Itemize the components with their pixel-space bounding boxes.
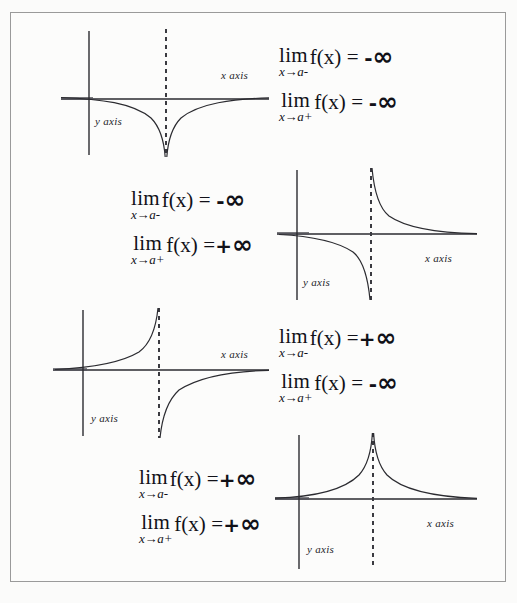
limit-equation-right: lim x→a+ f(x) = - ∞: [279, 371, 398, 404]
limit-equation-right: lim x→a+ f(x) = + ∞: [131, 233, 253, 266]
function-fx: f(x): [162, 188, 193, 213]
lim-text: lim: [281, 90, 310, 110]
function-fx: f(x): [314, 371, 345, 396]
limit-equation-left: lim x→a- f(x) = - ∞: [131, 188, 253, 221]
graph-minus-then-plus-infinity: x axis y axis: [269, 164, 481, 304]
equals-sign: =: [198, 233, 216, 256]
lim-subscript: x→a-: [279, 346, 308, 359]
lim-text: lim: [279, 45, 308, 65]
infinity-symbol: ∞: [376, 328, 397, 348]
infinity-symbol: ∞: [225, 190, 246, 210]
x-axis-label: x axis: [221, 69, 248, 81]
curve-right-branch: [160, 370, 269, 438]
y-axis-label: y axis: [303, 276, 330, 288]
lim-operator: lim x→a-: [139, 467, 168, 500]
equations-panel-4: lim x→a- f(x) = + ∞ lim x→a+ f(x) = + ∞: [139, 467, 261, 551]
equals-sign: =: [346, 371, 369, 394]
curve-left-branch: [61, 98, 165, 158]
equations-panel-1: lim x→a- f(x) = - ∞ lim x→a+ f(x) = - ∞: [279, 45, 398, 129]
infinity-symbol: ∞: [373, 47, 394, 67]
y-axis-label: y axis: [91, 412, 118, 424]
lim-subscript: x→a+: [131, 253, 164, 266]
infinity-symbol: ∞: [240, 514, 261, 534]
panel-1: x axis y axis lim x→a- f(x) = - ∞ lim x→…: [11, 13, 507, 158]
limit-equation-left: lim x→a- f(x) = + ∞: [279, 326, 398, 359]
limit-sign: -: [216, 189, 224, 213]
function-fx: f(x): [174, 512, 205, 537]
equals-sign: =: [341, 45, 364, 68]
curve-right-branch: [374, 433, 477, 498]
lim-text: lim: [141, 512, 170, 532]
y-axis-label: y axis: [95, 115, 122, 127]
panel-3: x axis y axis lim x→a- f(x) = + ∞ lim x→…: [11, 298, 507, 443]
lim-subscript: x→a+: [279, 391, 312, 404]
limit-equation-right: lim x→a+ f(x) = + ∞: [139, 512, 261, 545]
y-axis-label: y axis: [307, 543, 334, 555]
limit-equation-left: lim x→a- f(x) = - ∞: [279, 45, 398, 78]
graph-both-plus-infinity: x axis y axis: [269, 431, 481, 573]
figure-frame: x axis y axis lim x→a- f(x) = - ∞ lim x→…: [10, 12, 506, 582]
limit-sign: +: [215, 234, 232, 258]
limit-equation-left: lim x→a- f(x) = + ∞: [139, 467, 261, 500]
function-fx: f(x): [310, 45, 341, 70]
lim-operator: lim x→a+: [279, 90, 312, 123]
curve-right-branch: [167, 98, 269, 157]
infinity-symbol: ∞: [377, 92, 398, 112]
x-axis-label: x axis: [425, 252, 452, 264]
limit-sign: +: [219, 468, 236, 492]
graph-plus-then-minus-infinity: x axis y axis: [53, 306, 275, 441]
infinity-symbol: ∞: [377, 373, 398, 393]
equations-panel-2: lim x→a- f(x) = - ∞ lim x→a+ f(x) = + ∞: [131, 188, 253, 272]
function-fx: f(x): [170, 467, 201, 492]
equals-sign: =: [206, 512, 224, 535]
lim-text: lim: [133, 233, 162, 253]
panel-2: lim x→a- f(x) = - ∞ lim x→a+ f(x) = + ∞: [11, 158, 507, 303]
curve-left-branch: [275, 433, 372, 498]
lim-operator: lim x→a-: [279, 326, 308, 359]
lim-text: lim: [281, 371, 310, 391]
lim-text: lim: [139, 467, 168, 487]
infinity-symbol: ∞: [236, 469, 257, 489]
limit-equation-right: lim x→a+ f(x) = - ∞: [279, 90, 398, 123]
equals-sign: =: [341, 326, 359, 349]
infinity-symbol: ∞: [232, 235, 253, 255]
limit-sign: +: [223, 513, 240, 537]
lim-operator: lim x→a-: [131, 188, 160, 221]
lim-operator: lim x→a+: [131, 233, 164, 266]
lim-subscript: x→a+: [279, 110, 312, 123]
limit-sign: -: [369, 91, 377, 115]
lim-subscript: x→a-: [279, 65, 308, 78]
limit-sign: -: [364, 46, 372, 70]
lim-text: lim: [279, 326, 308, 346]
equals-sign: =: [346, 90, 369, 113]
panel-4: lim x→a- f(x) = + ∞ lim x→a+ f(x) = + ∞: [11, 431, 507, 581]
equals-sign: =: [201, 467, 219, 490]
limit-sign: +: [359, 327, 376, 351]
x-axis-label: x axis: [427, 517, 454, 529]
limit-sign: -: [369, 372, 377, 396]
graph-both-minus-infinity: x axis y axis: [61, 23, 276, 158]
equals-sign: =: [193, 188, 216, 211]
lim-subscript: x→a+: [139, 532, 172, 545]
lim-text: lim: [131, 188, 160, 208]
curve-right-branch: [372, 168, 477, 234]
function-fx: f(x): [166, 233, 197, 258]
x-axis-label: x axis: [221, 348, 248, 360]
lim-subscript: x→a-: [131, 208, 160, 221]
curve-left-branch: [55, 308, 158, 370]
lim-operator: lim x→a+: [139, 512, 172, 545]
lim-operator: lim x→a-: [279, 45, 308, 78]
lim-subscript: x→a-: [139, 487, 168, 500]
lim-operator: lim x→a+: [279, 371, 312, 404]
curve-left-branch: [279, 235, 370, 301]
function-fx: f(x): [314, 90, 345, 115]
equations-panel-3: lim x→a- f(x) = + ∞ lim x→a+ f(x) = - ∞: [279, 326, 398, 410]
function-fx: f(x): [310, 326, 341, 351]
